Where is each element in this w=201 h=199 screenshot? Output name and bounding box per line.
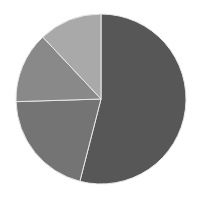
pie-slices (16, 14, 186, 184)
pie-chart (0, 0, 201, 199)
